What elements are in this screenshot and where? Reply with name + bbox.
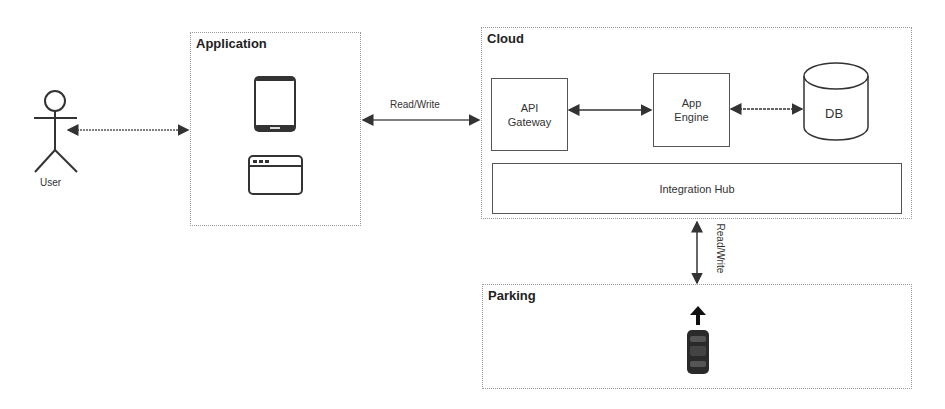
integration-hub-node[interactable]: Integration Hub (492, 163, 902, 214)
app-engine-node[interactable]: App Engine (653, 73, 730, 147)
api-gateway-line1: API (521, 101, 539, 115)
edge-label-cloud-parking: Read/Write (715, 219, 726, 279)
api-gateway-node[interactable]: API Gateway (491, 78, 568, 151)
user-actor-icon (34, 91, 77, 172)
user-label: User (40, 177, 61, 188)
application-title: Application (196, 36, 267, 51)
parking-group: Parking (482, 284, 912, 389)
app-engine-line2: Engine (674, 110, 708, 124)
cloud-title: Cloud (487, 31, 524, 46)
application-group: Application (190, 32, 361, 226)
api-gateway-line2: Gateway (508, 115, 551, 129)
app-engine-line1: App (682, 96, 702, 110)
edge-label-app-cloud: Read/Write (390, 99, 440, 110)
db-label: DB (825, 106, 843, 121)
integration-hub-label: Integration Hub (659, 182, 734, 196)
parking-title: Parking (488, 288, 536, 303)
